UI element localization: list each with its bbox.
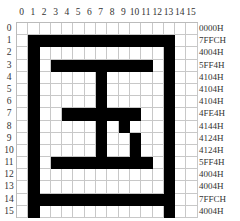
hex-code-label: 4104H [199, 95, 240, 107]
filled-pixel [141, 157, 152, 169]
filled-pixel [107, 194, 118, 206]
empty-pixel [107, 169, 118, 181]
empty-pixel [40, 108, 51, 120]
filled-pixel [130, 157, 141, 169]
empty-pixel [141, 169, 152, 181]
empty-pixel [175, 157, 186, 169]
filled-pixel [40, 35, 51, 47]
empty-pixel [85, 72, 96, 84]
filled-pixel [96, 133, 107, 145]
filled-pixel [28, 84, 39, 96]
filled-pixel [96, 121, 107, 133]
empty-pixel [40, 181, 51, 193]
empty-pixel [73, 121, 84, 133]
empty-pixel [17, 60, 28, 72]
empty-pixel [141, 206, 152, 218]
filled-pixel [164, 169, 175, 181]
filled-pixel [28, 157, 39, 169]
empty-pixel [153, 157, 164, 169]
filled-pixel [85, 194, 96, 206]
filled-pixel [119, 194, 130, 206]
empty-pixel [119, 169, 130, 181]
column-index-labels: 0123456789101112131415 [16, 5, 197, 19]
empty-pixel [141, 23, 152, 35]
hex-code-label: 4004H [199, 168, 240, 180]
empty-pixel [186, 72, 197, 84]
filled-pixel [96, 84, 107, 96]
empty-pixel [107, 121, 118, 133]
empty-pixel [51, 72, 62, 84]
filled-pixel [164, 194, 175, 206]
empty-pixel [153, 60, 164, 72]
empty-pixel [153, 121, 164, 133]
filled-pixel [141, 194, 152, 206]
filled-pixel [28, 108, 39, 120]
empty-pixel [73, 47, 84, 59]
empty-pixel [141, 47, 152, 59]
row-label: 13 [2, 180, 16, 192]
empty-pixel [141, 72, 152, 84]
row-label: 3 [2, 59, 16, 71]
empty-pixel [153, 47, 164, 59]
empty-pixel [73, 181, 84, 193]
filled-pixel [28, 35, 39, 47]
dot-matrix-grid [16, 22, 198, 218]
empty-pixel [96, 181, 107, 193]
empty-pixel [96, 23, 107, 35]
empty-pixel [186, 60, 197, 72]
empty-pixel [119, 206, 130, 218]
empty-pixel [153, 145, 164, 157]
filled-pixel [119, 121, 130, 133]
empty-pixel [17, 169, 28, 181]
empty-pixel [141, 108, 152, 120]
empty-pixel [175, 108, 186, 120]
filled-pixel [164, 157, 175, 169]
empty-pixel [175, 96, 186, 108]
empty-pixel [175, 194, 186, 206]
empty-pixel [186, 133, 197, 145]
empty-pixel [175, 84, 186, 96]
empty-pixel [17, 108, 28, 120]
filled-pixel [107, 60, 118, 72]
filled-pixel [164, 35, 175, 47]
empty-pixel [130, 96, 141, 108]
filled-pixel [62, 35, 73, 47]
empty-pixel [119, 133, 130, 145]
empty-pixel [73, 206, 84, 218]
filled-pixel [107, 157, 118, 169]
empty-pixel [153, 23, 164, 35]
empty-pixel [40, 96, 51, 108]
empty-pixel [153, 96, 164, 108]
empty-pixel [96, 206, 107, 218]
hex-code-label: 4104H [199, 83, 240, 95]
empty-pixel [62, 145, 73, 157]
filled-pixel [28, 60, 39, 72]
empty-pixel [119, 23, 130, 35]
empty-pixel [130, 181, 141, 193]
filled-pixel [85, 157, 96, 169]
empty-pixel [51, 169, 62, 181]
empty-pixel [119, 181, 130, 193]
column-label: 10 [129, 5, 140, 19]
empty-pixel [130, 23, 141, 35]
empty-pixel [119, 145, 130, 157]
empty-pixel [153, 72, 164, 84]
filled-pixel [119, 35, 130, 47]
empty-pixel [107, 84, 118, 96]
empty-pixel [40, 157, 51, 169]
empty-pixel [107, 145, 118, 157]
row-label: 11 [2, 156, 16, 168]
empty-pixel [51, 96, 62, 108]
empty-pixel [85, 145, 96, 157]
empty-pixel [40, 23, 51, 35]
column-label: 7 [95, 5, 106, 19]
empty-pixel [85, 206, 96, 218]
empty-pixel [107, 96, 118, 108]
column-label: 5 [72, 5, 83, 19]
empty-pixel [73, 96, 84, 108]
hex-code-label: 4004H [199, 180, 240, 192]
empty-pixel [153, 133, 164, 145]
column-label: 9 [118, 5, 129, 19]
row-label: 6 [2, 95, 16, 107]
empty-pixel [141, 145, 152, 157]
